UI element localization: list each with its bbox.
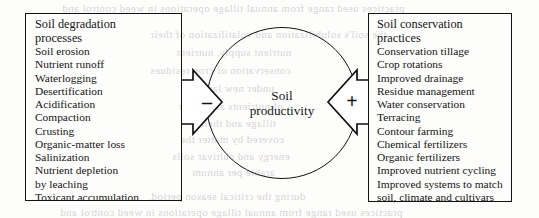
minus-sign: – [196, 92, 218, 112]
list-item: Nutrient runoff [35, 58, 177, 71]
list-item: Residue management [377, 85, 507, 98]
list-item: Water conservation [377, 98, 507, 111]
list-item: Organic-matter loss [35, 138, 177, 151]
list-item: Compaction [35, 111, 177, 124]
soil-conservation-content: Soil conservation practices Conservation… [377, 18, 507, 204]
list-item: Waterlogging [35, 72, 177, 85]
list-item: Crop rotations [377, 58, 507, 71]
list-item: Desertification [35, 85, 177, 98]
list-item: Improved systems to match soil, climate … [377, 178, 507, 204]
list-item: Improved nutrient cycling [377, 164, 507, 177]
soil-productivity-circle: Soil productivity [206, 27, 358, 179]
plus-sign: + [341, 91, 363, 111]
soil-degradation-title: Soil degradation processes [35, 18, 177, 45]
list-item: Salinization [35, 151, 177, 164]
list-item: Acidification [35, 98, 177, 111]
list-item: Toxicant accumulation [35, 191, 177, 204]
list-item: Terracing [377, 111, 507, 124]
list-item: Chemical fertilizers [377, 138, 507, 151]
soil-productivity-label: Soil productivity [207, 88, 357, 119]
list-item: Organic fertilizers [377, 151, 507, 164]
soil-conservation-box: Soil conservation practices Conservation… [368, 13, 512, 202]
soil-conservation-title: Soil conservation practices [377, 18, 507, 45]
list-item: Crusting [35, 125, 177, 138]
list-item: Contour farming [377, 125, 507, 138]
list-item: Conservation tillage [377, 45, 507, 58]
soil-degradation-box: Soil degradation processes Soil erosion … [25, 13, 182, 201]
soil-productivity-diagram: practices used range from annual tillage… [0, 0, 539, 218]
list-item: Improved drainage [377, 72, 507, 85]
list-item: Nutrient depletion by leaching [35, 164, 177, 190]
bleed-through-text: practices used range from annual tillage… [60, 206, 402, 218]
list-item: Soil erosion [35, 45, 177, 58]
soil-degradation-content: Soil degradation processes Soil erosion … [35, 18, 177, 204]
